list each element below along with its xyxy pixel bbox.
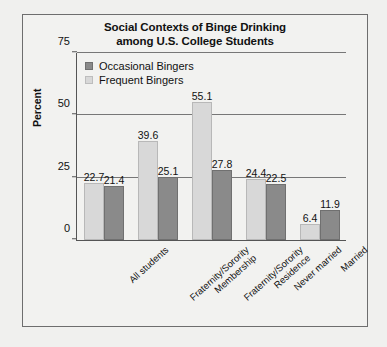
bar[interactable]: 27.8 [212, 170, 232, 240]
x-category-label: Married [338, 244, 369, 274]
bar[interactable]: 22.7 [84, 183, 104, 240]
legend-label: Occasional Bingers [99, 60, 194, 72]
y-axis-title: Percent [31, 88, 43, 127]
chart-legend: Occasional BingersFrequent Bingers [85, 59, 194, 87]
chart-figure: Social Contexts of Binge Drinking among … [22, 14, 368, 327]
bar[interactable]: 39.6 [138, 141, 158, 240]
bar-value-label: 39.6 [138, 129, 158, 141]
x-category-label-line: All students [127, 244, 171, 285]
bar-value-label: 6.4 [303, 212, 318, 224]
chart-title: Social Contexts of Binge Drinking among … [23, 20, 367, 48]
bar-group: 6.411.9 [300, 53, 340, 240]
bar-value-label: 11.9 [320, 198, 340, 210]
bar-value-label: 24.4 [246, 167, 266, 179]
x-category-label: All students [127, 244, 171, 285]
y-tick-label: 0 [64, 222, 70, 234]
chart-title-line-2: among U.S. College Students [23, 34, 367, 48]
bar[interactable]: 25.1 [158, 177, 178, 240]
bar-value-label: 55.1 [192, 90, 212, 102]
bar-group: 55.127.8 [192, 53, 232, 240]
y-tick-label: 50 [58, 97, 70, 109]
bar-value-label: 27.8 [212, 158, 232, 170]
bar[interactable]: 21.4 [104, 186, 124, 240]
bar-group: 24.422.5 [246, 53, 286, 240]
bar-value-label: 22.5 [266, 172, 286, 184]
bar-value-label: 22.7 [84, 171, 104, 183]
bar[interactable]: 11.9 [320, 210, 340, 240]
bar-value-label: 21.4 [104, 174, 124, 186]
bar[interactable]: 24.4 [246, 179, 266, 240]
x-category-label-line: Married [338, 244, 369, 274]
y-tick-label: 75 [58, 35, 70, 47]
legend-item[interactable]: Occasional Bingers [85, 59, 194, 73]
y-tick-label: 25 [58, 160, 70, 172]
bar[interactable]: 55.1 [192, 102, 212, 240]
bar[interactable]: 22.5 [266, 184, 286, 240]
bar[interactable]: 6.4 [300, 224, 320, 240]
legend-swatch [85, 62, 93, 70]
legend-item[interactable]: Frequent Bingers [85, 73, 194, 87]
legend-label: Frequent Bingers [99, 74, 183, 86]
chart-title-line-1: Social Contexts of Binge Drinking [23, 20, 367, 34]
bar-value-label: 25.1 [158, 165, 178, 177]
legend-swatch [85, 76, 93, 84]
